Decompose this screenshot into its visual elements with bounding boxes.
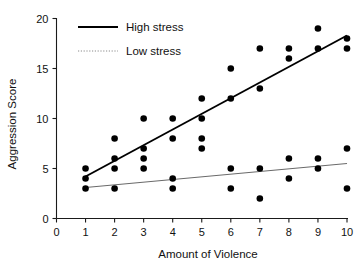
data-point [228, 165, 235, 172]
data-point [257, 165, 264, 172]
y-tick-label: 5 [42, 163, 48, 175]
data-point [257, 45, 264, 52]
x-tick-label: 8 [286, 226, 292, 238]
data-point [140, 115, 147, 122]
data-point [82, 165, 89, 172]
data-point [344, 45, 351, 52]
data-point [228, 65, 235, 72]
y-tick-label: 20 [36, 13, 48, 25]
data-point [169, 115, 176, 122]
x-tick-label: 6 [228, 226, 234, 238]
y-axis-title: Aggression Score [6, 79, 18, 170]
data-point [82, 175, 89, 182]
y-tick-label: 15 [36, 63, 48, 75]
chart-figure: 05101520012345678910 High stressLow stre… [0, 0, 363, 268]
data-point [257, 85, 264, 92]
x-tick-label: 1 [82, 226, 88, 238]
data-point [198, 135, 205, 142]
x-tick-label: 0 [53, 226, 59, 238]
regression-lines-group [86, 36, 347, 188]
data-point [140, 145, 147, 152]
x-tick-label: 3 [141, 226, 147, 238]
data-point [111, 135, 118, 142]
data-point [198, 145, 205, 152]
x-tick-label: 5 [199, 226, 205, 238]
data-point [111, 155, 118, 162]
data-point [111, 185, 118, 192]
data-point [286, 175, 293, 182]
data-point [169, 135, 176, 142]
y-tick-label: 10 [36, 113, 48, 125]
regression-line-high-stress [86, 36, 347, 177]
data-point [286, 155, 293, 162]
data-point [198, 115, 205, 122]
data-point [257, 195, 264, 202]
legend-label-low-stress: Low stress [126, 45, 181, 57]
data-point [315, 45, 322, 52]
x-tick-label: 2 [112, 226, 118, 238]
data-point [228, 95, 235, 102]
data-point [344, 35, 351, 42]
data-point [315, 25, 322, 32]
scatter-plot: 05101520012345678910 High stressLow stre… [0, 0, 363, 268]
data-point [315, 165, 322, 172]
x-tick-label: 10 [341, 226, 353, 238]
data-point [198, 95, 205, 102]
data-point [344, 145, 351, 152]
data-point [140, 165, 147, 172]
data-point [315, 155, 322, 162]
data-point [286, 55, 293, 62]
data-point [140, 155, 147, 162]
legend-group: High stressLow stress [78, 21, 184, 57]
x-tick-label: 7 [257, 226, 263, 238]
data-point [286, 45, 293, 52]
data-point [169, 185, 176, 192]
data-point [228, 185, 235, 192]
x-axis-title: Amount of Violence [158, 248, 258, 260]
tick-labels-group: 05101520012345678910 [36, 13, 353, 238]
x-tick-label: 9 [315, 226, 321, 238]
x-tick-label: 4 [170, 226, 176, 238]
y-tick-label: 0 [42, 213, 48, 225]
data-point [344, 185, 351, 192]
data-point [111, 165, 118, 172]
data-point [82, 185, 89, 192]
legend-label-high-stress: High stress [126, 21, 184, 33]
data-point [169, 175, 176, 182]
regression-line-low-stress [86, 164, 347, 188]
